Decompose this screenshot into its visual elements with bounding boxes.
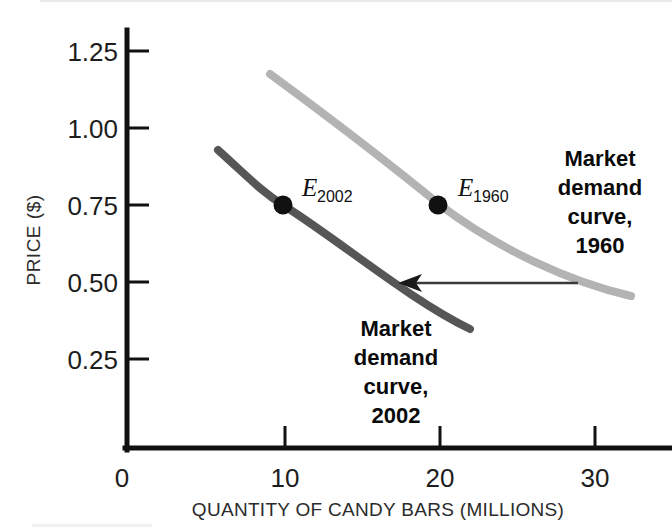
shift-arrow bbox=[398, 274, 578, 292]
y-tick-labels: 1.25 1.00 0.75 0.50 0.25 bbox=[67, 37, 118, 375]
equilibrium-label-2002-sub: 2002 bbox=[317, 188, 353, 205]
x-axis-title: QUANTITY OF CANDY BARS (MILLIONS) bbox=[192, 499, 564, 520]
x-tick-label-10: 10 bbox=[271, 463, 300, 493]
demand-shift-chart: 1.25 1.00 0.75 0.50 0.25 0 10 20 30 QUAN… bbox=[0, 0, 672, 531]
curve-label-1960-line3: curve, bbox=[568, 204, 633, 229]
equilibrium-label-2002: E 2002 bbox=[301, 174, 353, 205]
equilibrium-point-1960 bbox=[429, 196, 448, 215]
x-tick-label-20: 20 bbox=[426, 463, 455, 493]
y-tick-label-100: 1.00 bbox=[67, 114, 118, 144]
equilibrium-label-1960-sub: 1960 bbox=[473, 188, 509, 205]
equilibrium-point-2002 bbox=[274, 196, 293, 215]
demand-curve-2002 bbox=[218, 150, 470, 329]
x-tick-label-30: 30 bbox=[581, 463, 610, 493]
curve-label-2002-line2: demand bbox=[354, 345, 438, 370]
curve-label-1960-line2: demand bbox=[558, 175, 642, 200]
y-tick-label-075: 0.75 bbox=[67, 191, 118, 221]
curve-label-2002: Market demand curve, 2002 bbox=[354, 316, 438, 428]
equilibrium-label-1960-base: E bbox=[457, 174, 473, 201]
y-tick-marks bbox=[129, 51, 149, 359]
curve-label-1960: Market demand curve, 1960 bbox=[558, 146, 642, 258]
chart-canvas: 1.25 1.00 0.75 0.50 0.25 0 10 20 30 QUAN… bbox=[0, 0, 672, 531]
curve-label-1960-line4: 1960 bbox=[576, 233, 625, 258]
x-tick-marks bbox=[285, 426, 595, 446]
y-tick-label-125: 1.25 bbox=[67, 37, 118, 67]
curve-label-1960-line1: Market bbox=[565, 146, 637, 171]
curve-label-2002-line1: Market bbox=[361, 316, 433, 341]
x-tick-label-0: 0 bbox=[115, 463, 129, 493]
curve-label-2002-line3: curve, bbox=[364, 374, 429, 399]
y-tick-label-025: 0.25 bbox=[67, 345, 118, 375]
x-tick-labels: 0 10 20 30 bbox=[115, 463, 610, 493]
curve-label-2002-line4: 2002 bbox=[372, 403, 421, 428]
y-tick-label-050: 0.50 bbox=[67, 268, 118, 298]
equilibrium-label-2002-base: E bbox=[301, 174, 317, 201]
equilibrium-label-1960: E 1960 bbox=[457, 174, 509, 205]
y-axis-title: PRICE ($) bbox=[23, 194, 44, 285]
